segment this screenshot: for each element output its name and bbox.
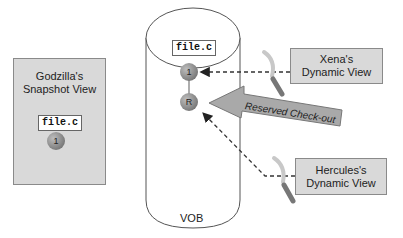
snapshot-view-title-line2: Snapshot View <box>23 83 96 96</box>
snapshot-version-node: 1 <box>47 132 65 150</box>
xena-view-title-line2: Dynamic View <box>302 66 372 79</box>
snapshot-view-title-line1: Godzilla's <box>36 70 83 83</box>
magnifier-icon <box>274 158 293 201</box>
vob-reserved-node: R <box>180 93 198 111</box>
xena-view-box: Xena's Dynamic View <box>290 48 383 84</box>
hercules-view-title-line2: Dynamic View <box>306 177 376 190</box>
hercules-view-title-line1: Hercules's <box>315 164 366 177</box>
magnifier-icon <box>264 52 282 94</box>
hercules-view-box: Hercules's Dynamic View <box>295 158 387 195</box>
vob-label: VOB <box>180 212 203 224</box>
xena-view-title-line1: Xena's <box>320 53 353 66</box>
vob-version-node: 1 <box>180 63 198 81</box>
vob-file-label: file.c <box>172 40 216 56</box>
snapshot-file-label: file.c <box>38 115 82 131</box>
